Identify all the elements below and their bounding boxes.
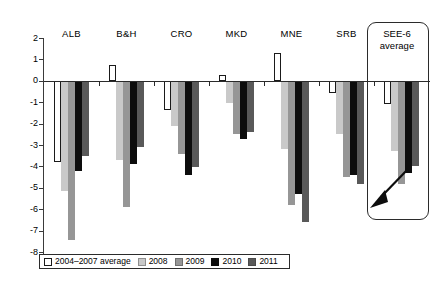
bar bbox=[412, 81, 419, 167]
bar bbox=[82, 81, 89, 156]
y-tick-label: -7 bbox=[30, 226, 38, 235]
y-tick-label: -8 bbox=[30, 248, 38, 257]
bar bbox=[357, 81, 364, 184]
y-axis-labels: 210-1-2-3-4-5-6-7-8 bbox=[8, 38, 38, 252]
y-tick-label: -3 bbox=[30, 141, 38, 150]
bar bbox=[116, 81, 123, 160]
legend-label: 2004–2007 average bbox=[55, 257, 131, 266]
bar bbox=[61, 81, 68, 191]
y-tick-label: 0 bbox=[33, 76, 38, 85]
bar bbox=[384, 81, 391, 105]
legend-item: 2010 bbox=[211, 257, 241, 266]
group-separator-tick bbox=[154, 81, 155, 86]
legend-swatch bbox=[44, 258, 52, 266]
bar bbox=[288, 81, 295, 205]
legend-label: 2009 bbox=[186, 257, 205, 266]
group-separator-tick bbox=[374, 81, 375, 86]
bar bbox=[240, 81, 247, 139]
legend-item: 2004–2007 average bbox=[44, 257, 131, 266]
legend-swatch bbox=[138, 258, 146, 266]
bar bbox=[219, 75, 226, 80]
y-tick-label: 2 bbox=[33, 34, 38, 43]
plot-area bbox=[44, 38, 429, 252]
bar bbox=[226, 81, 233, 103]
y-tick-label: -1 bbox=[30, 98, 38, 107]
y-tick-label: -4 bbox=[30, 162, 38, 171]
x-axis-zero-line bbox=[44, 81, 430, 82]
bar bbox=[123, 81, 130, 207]
legend-item: 2011 bbox=[248, 257, 277, 266]
bar bbox=[274, 53, 281, 81]
bar bbox=[137, 81, 144, 147]
see6-label-line1: SEE-6 bbox=[369, 28, 425, 40]
legend-label: 2011 bbox=[259, 257, 277, 266]
group-separator-tick bbox=[264, 81, 265, 86]
legend-label: 2010 bbox=[222, 257, 241, 266]
y-tick-label: -5 bbox=[30, 183, 38, 192]
bar bbox=[350, 81, 357, 175]
bar bbox=[336, 81, 343, 135]
legend-item: 2009 bbox=[175, 257, 205, 266]
down-left-arrow-icon bbox=[366, 166, 412, 210]
bar bbox=[281, 81, 288, 149]
group-separator-tick bbox=[209, 81, 210, 86]
bar bbox=[54, 81, 61, 162]
legend-label: 2008 bbox=[149, 257, 168, 266]
group-separator-tick bbox=[319, 81, 320, 86]
bar bbox=[343, 81, 350, 177]
group-separator-tick bbox=[99, 81, 100, 86]
bar bbox=[109, 65, 116, 81]
bar bbox=[68, 81, 75, 240]
y-tick-label: -6 bbox=[30, 205, 38, 214]
bar bbox=[171, 81, 178, 126]
chart-legend: 2004–2007 average2008200920102011 bbox=[39, 254, 290, 269]
chart-figure: 210-1-2-3-4-5-6-7-8 ALBB&HCROMKDMNESRB S… bbox=[0, 0, 439, 287]
bar bbox=[192, 81, 199, 168]
bar bbox=[405, 81, 412, 173]
see6-box-label: SEE-6 average bbox=[369, 28, 425, 51]
bar bbox=[178, 81, 185, 154]
y-tick-label: -2 bbox=[30, 119, 38, 128]
bar bbox=[302, 81, 309, 222]
bar bbox=[75, 81, 82, 171]
bar bbox=[247, 81, 254, 132]
bar bbox=[185, 81, 192, 175]
bar bbox=[329, 81, 336, 93]
legend-swatch bbox=[175, 258, 183, 266]
bar bbox=[391, 81, 398, 152]
bar bbox=[130, 81, 137, 164]
legend-swatch bbox=[248, 258, 256, 266]
legend-item: 2008 bbox=[138, 257, 168, 266]
bar bbox=[233, 81, 240, 135]
bar bbox=[164, 81, 171, 110]
see6-label-line2: average bbox=[369, 40, 425, 52]
bar bbox=[295, 81, 302, 194]
legend-swatch bbox=[211, 258, 219, 266]
y-tick-label: 1 bbox=[33, 55, 38, 64]
